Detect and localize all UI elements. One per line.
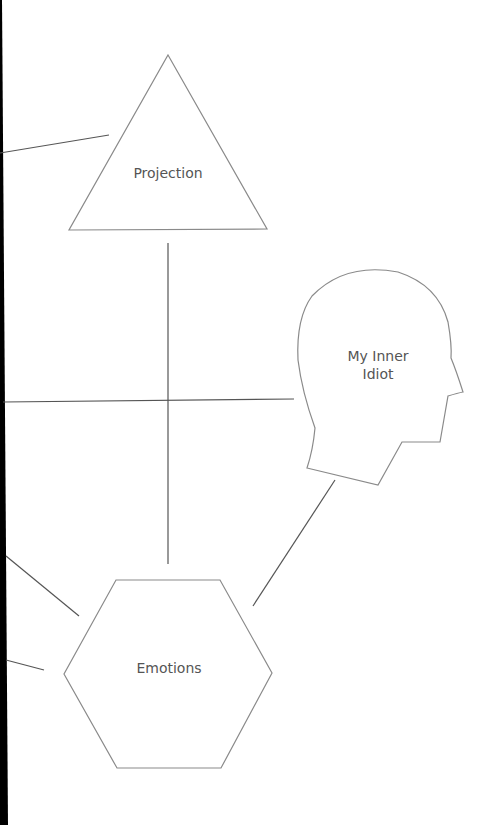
node-label-line-2: Idiot [363, 366, 394, 382]
connector-left-to-emotions-lower[interactable] [6, 660, 44, 670]
node-label: Projection [133, 165, 202, 181]
connector-inner-idiot-to-emotions[interactable] [253, 480, 335, 606]
node-emotions[interactable]: Emotions [64, 580, 272, 768]
diagram-canvas: Projection My Inner Idiot Emotions [0, 0, 497, 825]
connector-left-to-inner-idiot[interactable] [3, 399, 294, 402]
node-projection[interactable]: Projection [69, 55, 267, 230]
left-edge-strip [0, 0, 8, 825]
connector-left-to-projection[interactable] [0, 135, 109, 153]
node-label: Emotions [136, 660, 201, 676]
triangle-shape [69, 55, 267, 230]
node-label-line-1: My Inner [347, 348, 408, 364]
node-inner-idiot[interactable]: My Inner Idiot [298, 270, 463, 485]
connector-left-to-emotions-upper[interactable] [6, 556, 79, 616]
